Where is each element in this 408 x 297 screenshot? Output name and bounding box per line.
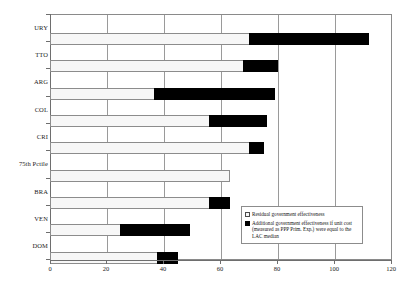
x-tick-label-120: 120 — [386, 265, 396, 272]
bar-segment-residual — [50, 115, 210, 127]
bar-segment-additional — [120, 224, 189, 236]
bar-row — [50, 115, 267, 127]
legend-item-residual: Residual government effectiveness — [245, 211, 359, 217]
x-tick-label-40: 40 — [160, 265, 167, 272]
legend-label-residual: Residual government effectiveness — [252, 211, 325, 217]
y-label-col: COL — [3, 106, 48, 114]
y-label-bra: BRA — [3, 188, 48, 196]
bar-row — [50, 142, 264, 154]
bar-segment-residual — [50, 33, 250, 45]
bar-segment-residual — [50, 142, 250, 154]
bar-row — [50, 88, 275, 100]
chart-legend: Residual government effectiveness Additi… — [241, 206, 363, 244]
legend-swatch-additional-icon — [245, 221, 250, 226]
bar-row — [50, 224, 190, 236]
y-label-cri: CRI — [3, 133, 48, 141]
bar-segment-additional — [249, 142, 264, 154]
x-tick-label-60: 60 — [217, 265, 224, 272]
bar-segment-residual — [50, 60, 244, 72]
bar-segment-residual — [50, 197, 210, 209]
bar-row — [50, 197, 230, 209]
stacked-bar-chart: URY TTO ARG COL CRI 75th Pctile BRA VEN … — [0, 0, 408, 297]
y-label-tto: TTO — [3, 51, 48, 59]
bar-segment-additional — [154, 88, 275, 100]
x-tick-label-20: 20 — [103, 265, 110, 272]
x-axis-ticks: 0 20 40 60 80 100 120 — [50, 260, 392, 282]
bar-segment-additional — [243, 60, 278, 72]
legend-swatch-residual-icon — [245, 212, 250, 217]
y-axis-labels: URY TTO ARG COL CRI 75th Pctile BRA VEN … — [0, 14, 48, 260]
legend-label-additional: Additional government effectiveness if u… — [252, 220, 359, 239]
bar-row — [50, 33, 369, 45]
y-label-dom: DOM — [3, 242, 48, 250]
y-label-arg: ARG — [3, 78, 48, 86]
y-label-ury: URY — [3, 24, 48, 32]
bar-row — [50, 170, 230, 182]
bar-segment-additional — [249, 33, 370, 45]
bar-segment-additional — [209, 197, 230, 209]
y-label-ven: VEN — [3, 215, 48, 223]
y-label-75th-pctile: 75th Pctile — [3, 160, 48, 168]
bar-segment-residual — [50, 170, 230, 182]
x-tick-label-100: 100 — [329, 265, 339, 272]
legend-item-additional: Additional government effectiveness if u… — [245, 220, 359, 239]
bar-row — [50, 60, 278, 72]
x-tick-label-0: 0 — [48, 265, 51, 272]
bar-segment-residual — [50, 88, 155, 100]
bar-segment-additional — [209, 115, 267, 127]
x-tick-label-80: 80 — [274, 265, 281, 272]
bar-segment-residual — [50, 224, 121, 236]
